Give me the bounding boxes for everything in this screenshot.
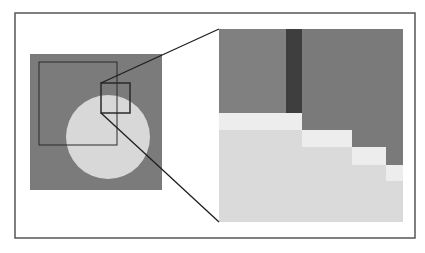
zoom-gray-step	[302, 29, 403, 130]
zoom-panel	[219, 29, 403, 222]
zoom-gray-step	[386, 147, 403, 165]
zoom-panel-left-gray	[219, 29, 286, 113]
zoom-light-step	[302, 130, 352, 147]
zoom-light-step	[219, 113, 302, 130]
zoom-light-step	[386, 165, 403, 181]
zoom-gray-step	[352, 130, 403, 147]
source-light-circle	[66, 95, 150, 179]
zoom-dark-strip	[286, 29, 302, 113]
zoom-illustration	[0, 0, 425, 253]
zoom-light-step	[352, 147, 386, 165]
